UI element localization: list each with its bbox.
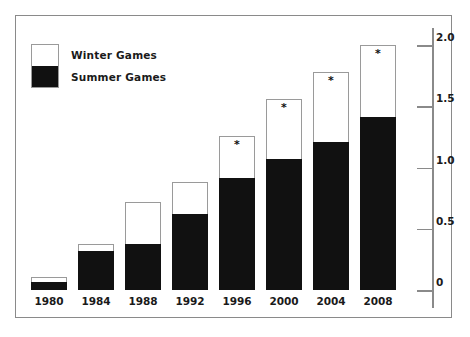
- bar-group-1988[interactable]: 1988: [125, 202, 161, 290]
- x-axis-label-2004: 2004: [305, 295, 357, 307]
- bar-segment-summer-1988[interactable]: [125, 244, 161, 290]
- bar-stack: [78, 243, 114, 290]
- y-tick-label-2.0: 2.0: [436, 31, 466, 43]
- bar-stack: [31, 277, 67, 290]
- bar-group-1992[interactable]: 1992: [172, 182, 208, 290]
- asterisk-marker-1996: *: [220, 140, 254, 150]
- x-axis-label-2000: 2000: [258, 295, 310, 307]
- chart-screenshot: Winter Games Summer Games 19801984198819…: [0, 0, 470, 337]
- bar-segment-winter-2004[interactable]: *: [313, 72, 349, 142]
- legend-item-winter-games: Winter Games: [31, 44, 191, 66]
- x-axis-label-1992: 1992: [164, 295, 216, 307]
- y-tick-mark-1.0: [417, 168, 433, 170]
- bar-segment-winter-1988[interactable]: [125, 202, 161, 244]
- bar-stack: *: [266, 99, 302, 290]
- bar-group-1980[interactable]: 1980: [31, 277, 67, 290]
- bar-segment-winter-2008[interactable]: *: [360, 45, 396, 117]
- bar-stack: *: [360, 45, 396, 290]
- asterisk-marker-2000: *: [267, 103, 301, 113]
- plot-area: Winter Games Summer Games 19801984198819…: [0, 0, 470, 337]
- x-axis-label-1980: 1980: [23, 295, 75, 307]
- legend-swatch-summer-icon: [31, 66, 59, 88]
- bar-segment-summer-1984[interactable]: [78, 251, 114, 290]
- bar-group-2008[interactable]: *2008: [360, 45, 396, 290]
- legend-label-winter: Winter Games: [71, 49, 157, 61]
- bar-group-2004[interactable]: *2004: [313, 72, 349, 290]
- bar-segment-summer-1996[interactable]: [219, 178, 255, 290]
- bar-segment-summer-1980[interactable]: [31, 282, 67, 290]
- y-tick-label-1.0: 1.0: [436, 154, 466, 166]
- bar-stack: [172, 182, 208, 290]
- bar-stack: *: [219, 136, 255, 290]
- asterisk-marker-2008: *: [361, 49, 395, 59]
- y-tick-mark-0: [417, 290, 433, 292]
- x-axis-label-1984: 1984: [70, 295, 122, 307]
- bar-segment-winter-1980[interactable]: [31, 277, 67, 282]
- bar-segment-summer-2004[interactable]: [313, 142, 349, 290]
- bar-segment-winter-1984[interactable]: [78, 244, 114, 251]
- chart-legend: Winter Games Summer Games: [31, 44, 191, 88]
- bar-group-2000[interactable]: *2000: [266, 99, 302, 290]
- legend-swatch-winter-icon: [31, 44, 59, 66]
- y-tick-mark-0.5: [417, 229, 433, 231]
- legend-item-summer-games: Summer Games: [31, 66, 191, 88]
- x-axis-label-1996: 1996: [211, 295, 263, 307]
- x-axis-label-1988: 1988: [117, 295, 169, 307]
- y-tick-label-1.5: 1.5: [436, 92, 466, 104]
- bar-segment-winter-2000[interactable]: *: [266, 99, 302, 159]
- bar-segment-summer-1992[interactable]: [172, 214, 208, 290]
- asterisk-marker-2004: *: [314, 76, 348, 86]
- y-tick-label-0: 0: [436, 276, 466, 288]
- bar-segment-winter-1996[interactable]: *: [219, 136, 255, 178]
- bar-group-1984[interactable]: 1984: [78, 243, 114, 290]
- y-tick-mark-1.5: [417, 106, 433, 108]
- legend-label-summer: Summer Games: [71, 71, 166, 83]
- bar-segment-summer-2008[interactable]: [360, 117, 396, 290]
- y-tick-mark-2.0: [417, 45, 433, 47]
- bar-segment-summer-2000[interactable]: [266, 159, 302, 290]
- bar-stack: [125, 202, 161, 290]
- bar-stack: *: [313, 72, 349, 290]
- bar-group-1996[interactable]: *1996: [219, 136, 255, 290]
- x-axis-label-2008: 2008: [352, 295, 404, 307]
- bar-segment-winter-1992[interactable]: [172, 182, 208, 214]
- y-tick-label-0.5: 0.5: [436, 215, 466, 227]
